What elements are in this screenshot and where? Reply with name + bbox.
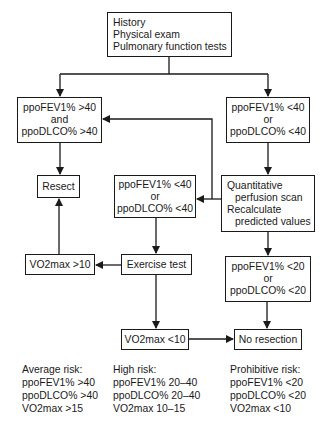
legend-line: ppoFEV1% 20–40: [113, 376, 200, 389]
legend-line: ppoFEV1% >40: [22, 376, 98, 389]
exercise-test-label: Exercise test: [127, 259, 186, 271]
good-pft-line-1: ppoFEV1% >40: [23, 102, 96, 114]
low-pft-node: ppoFEV1% <40 or ppoDLCO% <40: [226, 97, 310, 143]
low-pft-line-2: or: [263, 114, 272, 126]
legend-title: Prohibitive risk:: [230, 363, 306, 376]
start-line-1: History: [113, 17, 145, 29]
legend-line: ppoDLCO% >40: [22, 389, 98, 402]
start-node: History Physical exam Pulmonary function…: [107, 12, 232, 57]
very-low-pft-line-3: ppoDLCO% <20: [230, 285, 306, 297]
legend-line: ppoFEV1% <20: [230, 376, 306, 389]
resect-label: Resect: [42, 181, 74, 193]
vo2-low-node: VO2max <10: [121, 329, 189, 350]
low-pft-recalc-line-1: ppoFEV1% <40: [118, 179, 191, 191]
resect-node: Resect: [37, 175, 80, 198]
legend-title: Average risk:: [22, 363, 98, 376]
exercise-test-node: Exercise test: [121, 254, 192, 275]
low-pft-line-1: ppoFEV1% <40: [231, 102, 304, 114]
vo2-high-node: VO2max >10: [25, 254, 95, 275]
good-pft-line-2: and: [51, 114, 68, 126]
start-line-3: Pulmonary function tests: [113, 41, 227, 53]
vo2-high-label: VO2max >10: [30, 259, 91, 271]
legend-line: ppoDLCO% 20–40: [113, 389, 200, 402]
no-resection-node: No resection: [234, 329, 302, 350]
very-low-pft-line-2: or: [263, 273, 272, 285]
low-pft-recalc-node: ppoFEV1% <40 or ppoDLCO% <40: [114, 175, 196, 218]
quant-line-4: predicted values: [227, 216, 311, 228]
legend-line: VO2max <10: [230, 402, 306, 415]
low-pft-recalc-line-3: ppoDLCO% <40: [117, 203, 193, 215]
legend-high-risk: High risk: ppoFEV1% 20–40 ppoDLCO% 20–40…: [113, 363, 200, 415]
very-low-pft-line-1: ppoFEV1% <20: [231, 261, 304, 273]
quant-line-1: Quantitative: [227, 180, 282, 192]
low-pft-recalc-line-2: or: [150, 191, 159, 203]
good-pft-node: ppoFEV1% >40 and ppoDLCO% >40: [17, 97, 102, 143]
legend-prohibitive-risk: Prohibitive risk: ppoFEV1% <20 ppoDLCO% …: [230, 363, 306, 415]
quant-line-3: Recalculate: [227, 204, 281, 216]
vo2-low-label: VO2max <10: [125, 334, 186, 346]
legend-average-risk: Average risk: ppoFEV1% >40 ppoDLCO% >40 …: [22, 363, 98, 415]
legend-line: VO2max >15: [22, 402, 98, 415]
legend-line: VO2max 10–15: [113, 402, 200, 415]
good-pft-line-3: ppoDLCO% >40: [22, 126, 98, 138]
legend-title: High risk:: [113, 363, 200, 376]
very-low-pft-node: ppoFEV1% <20 or ppoDLCO% <20: [225, 256, 311, 302]
low-pft-line-3: ppoDLCO% <40: [230, 126, 306, 138]
quant-scan-node: Quantitative perfusion scan Recalculate …: [221, 175, 315, 232]
quant-line-2: perfusion scan: [227, 192, 303, 204]
legend-line: ppoDLCO% <20: [230, 389, 306, 402]
no-resection-label: No resection: [239, 334, 297, 346]
start-line-2: Physical exam: [113, 29, 180, 41]
